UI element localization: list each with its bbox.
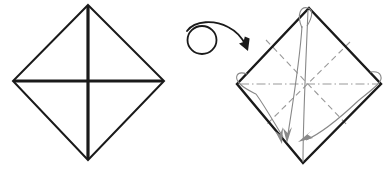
right-diamond-panel: [237, 8, 381, 163]
turn-over-arrowhead-icon: [239, 37, 250, 52]
turn-over-arrow: [187, 22, 250, 54]
origami-diagram: [0, 0, 392, 172]
fold-arrow-left-shaft: [256, 94, 283, 137]
turn-over-loop-icon: [188, 26, 217, 54]
left-diamond-panel: [13, 5, 164, 160]
fold-arrow-top-shaft-left: [288, 26, 302, 134]
fold-arrow-right-corner: [298, 72, 381, 142]
fold-arrow-right-arrowhead-icon: [298, 130, 313, 143]
diagram-canvas: [0, 0, 392, 172]
